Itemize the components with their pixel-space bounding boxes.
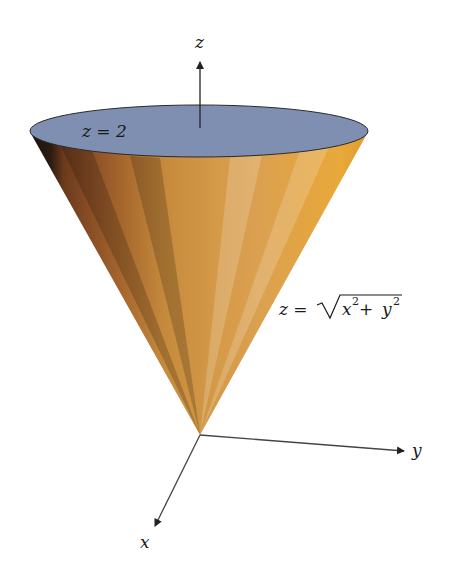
cap-plane [30, 105, 368, 157]
svg-text:+: + [359, 299, 373, 319]
svg-text:z =: z = [278, 299, 308, 319]
x-axis-label: x [140, 532, 150, 552]
y-axis-label: y [411, 440, 422, 460]
z-axis-label: z [194, 32, 205, 52]
x-axis [155, 435, 200, 526]
svg-text:y: y [381, 299, 392, 319]
surface-equation: z = x 2 + y 2 [278, 295, 402, 319]
svg-text:x: x [342, 299, 352, 319]
svg-text:2: 2 [352, 295, 359, 308]
y-axis [200, 435, 404, 451]
cone-diagram: z z = 2 y x z = x 2 + y 2 [0, 0, 457, 575]
plane-label: z = 2 [81, 121, 127, 141]
svg-text:2: 2 [393, 295, 400, 308]
